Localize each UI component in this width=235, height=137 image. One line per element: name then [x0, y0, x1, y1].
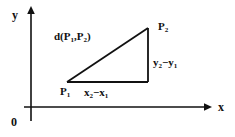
vertical-leg-label-part2: −y [162, 56, 174, 68]
vertical-leg-label-sub2: 1 [174, 62, 178, 70]
vertex-label-p2-base: P [158, 20, 165, 32]
hypotenuse-distance-label: d(P1,P2) [54, 31, 91, 42]
vertex-label-p2-subscript: 2 [165, 26, 169, 34]
horizontal-leg-label-part1: x [84, 86, 90, 98]
vertex-label-p1-base: P [60, 85, 67, 97]
horizontal-leg-label: x2−x1 [84, 87, 108, 98]
x-axis-label: x [218, 101, 224, 113]
vertex-label-p1-subscript: 1 [67, 91, 71, 99]
vertical-leg-label: y2−y1 [153, 57, 177, 68]
vertex-label-p1: P1 [60, 86, 70, 97]
vertical-leg-label-sub1: 2 [159, 62, 163, 70]
distance-formula-diagram: y x 0 P1 P2 d(P1,P2) y2−y1 x2−x1 [0, 0, 235, 137]
y-axis-label: y [12, 9, 18, 21]
x-axis-arrowhead-icon [204, 103, 212, 111]
diagram-canvas [0, 0, 235, 137]
hypotenuse-label-part3: ) [87, 30, 91, 42]
y-axis-arrowhead-icon [27, 6, 35, 14]
hypotenuse-label-part2: ,P [74, 30, 83, 42]
origin-label: 0 [11, 116, 17, 128]
hypotenuse-label-sub2: 2 [84, 36, 88, 44]
hypotenuse-label-part1: d(P [54, 30, 71, 42]
horizontal-leg-label-part2: −x [93, 86, 105, 98]
vertex-label-p2: P2 [158, 21, 168, 32]
hypotenuse-label-sub1: 1 [71, 36, 75, 44]
horizontal-leg-label-sub2: 1 [105, 92, 109, 100]
horizontal-leg-label-sub1: 2 [90, 92, 94, 100]
vertical-leg-label-part1: y [153, 56, 159, 68]
